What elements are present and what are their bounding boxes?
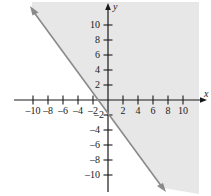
y-tick-label-2: 2 [95, 80, 100, 90]
x-tick-label--10: –10 [26, 106, 41, 116]
x-tick-label-2: 2 [121, 106, 126, 116]
y-tick-label--2: –2 [94, 110, 104, 120]
y-tick-label-10: 10 [90, 20, 100, 30]
x-axis-label: x [204, 89, 208, 99]
y-tick-label-8: 8 [95, 35, 100, 45]
x-tick-label-4: 4 [136, 106, 141, 116]
y-axis-label: y [113, 2, 117, 12]
y-tick-label--8: –8 [90, 155, 100, 165]
graph-canvas [0, 0, 211, 196]
x-tick-label-8: 8 [166, 106, 171, 116]
x-tick-label--6: –6 [58, 106, 68, 116]
x-tick-label-10: 10 [178, 106, 188, 116]
y-tick-label--6: –6 [90, 140, 100, 150]
linear-inequality-graph: –10 –8 –6 –4 –2 2 4 6 8 10 10 8 6 4 2 –2… [0, 0, 211, 196]
x-tick-label--4: –4 [73, 106, 83, 116]
y-tick-label-4: 4 [95, 65, 100, 75]
y-tick-label-6: 6 [95, 50, 100, 60]
shaded-solution-region [32, 2, 199, 194]
y-tick-label--10: –10 [85, 170, 100, 180]
y-tick-label--4: –4 [90, 125, 100, 135]
x-tick-label-6: 6 [151, 106, 156, 116]
x-tick-label--8: –8 [43, 106, 53, 116]
